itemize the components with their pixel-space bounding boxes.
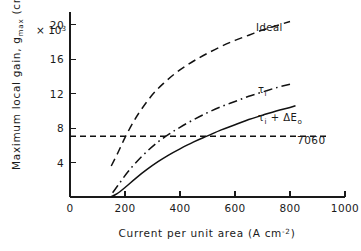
y-axis-ticks (70, 25, 76, 163)
x-tick-label: 600 (224, 202, 245, 214)
y-axis-tick-labels: 48121620 (50, 19, 64, 169)
y-axis-title: Maximum local gain, gmax (cm-1) (10, 0, 25, 170)
figure-container: 48121620 02004006008001000 Ideal τi τi +… (0, 0, 361, 251)
x-tick-label: 400 (169, 202, 190, 214)
x-tick-label: 200 (114, 202, 135, 214)
y-axis-multiplier: × 103 (36, 24, 66, 37)
threshold-label-7060: 7060 (297, 134, 326, 146)
x-axis-tick-labels: 02004006008001000 (66, 202, 359, 214)
y-tick-label: 16 (50, 53, 64, 65)
x-tick-label: 1000 (331, 202, 359, 214)
x-axis-ticks (125, 191, 345, 197)
curve-label-tau-i: τi (258, 84, 267, 98)
x-tick-label: 0 (66, 202, 73, 214)
y-tick-label: 8 (57, 122, 64, 134)
x-axis-title: Current per unit area (A cm-2) (119, 227, 296, 240)
y-tick-label: 12 (50, 88, 64, 100)
chart-canvas: 48121620 02004006008001000 Ideal τi τi +… (0, 0, 361, 251)
y-tick-label: 4 (57, 157, 64, 169)
x-tick-label: 800 (279, 202, 300, 214)
curve-label-ideal: Ideal (256, 22, 283, 33)
